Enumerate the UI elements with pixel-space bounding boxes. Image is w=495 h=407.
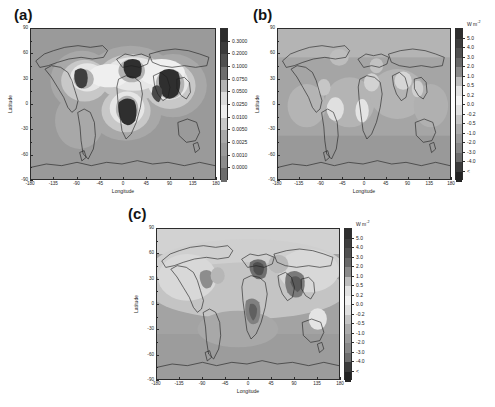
panel-c-colorbar-label: 4.0 <box>356 245 363 250</box>
panel-b-xtickmark <box>386 177 387 180</box>
colorbar-tickmark <box>463 171 465 172</box>
panel-a-yminortick <box>30 155 32 156</box>
colorbar-tickmark <box>228 104 230 105</box>
panel-c-ytick-label: 90 <box>142 226 154 231</box>
panel-c-yminortick <box>156 291 158 292</box>
panel-a-xtickmark <box>146 177 147 180</box>
panel-b-ytick-label: -60 <box>263 152 275 157</box>
panel-c-colorbar-label: -3.0 <box>356 349 365 354</box>
panel-b-colorbar-label: 0.0 <box>467 102 474 107</box>
colorbar-tickmark <box>463 152 465 153</box>
panel-b-xtick-label: 45 <box>383 182 388 187</box>
panel-c-yminortick <box>156 304 158 305</box>
panel-a-label: (a) <box>14 6 33 23</box>
panel-b-xtick-label: 0 <box>363 182 366 187</box>
panel-c-xtick-label: -45 <box>222 382 229 387</box>
colorbar-tickmark <box>352 342 354 343</box>
panel-c-xtickmark <box>248 377 249 380</box>
colorbar-segment <box>221 168 227 181</box>
panel-b-xtickmark <box>408 177 409 180</box>
panel-c-yminortick <box>156 241 158 242</box>
colorbar-tickmark <box>352 352 354 353</box>
panel-a-colorbar: 0.30000.20000.10000.07500.05000.02500.01… <box>220 28 246 180</box>
colorbar-tickmark <box>463 85 465 86</box>
colorbar-segment <box>221 42 227 55</box>
panel-c-ytick-label: 60 <box>142 251 154 256</box>
panel-c-xtickmark <box>271 377 272 380</box>
panel-a-xtickmark <box>53 177 54 180</box>
panel-c-xtick-label: 90 <box>291 382 296 387</box>
colorbar-tickmark <box>228 129 230 130</box>
panel-a: (a) <box>0 0 250 200</box>
panel-b-xtick-label: 90 <box>405 182 410 187</box>
panel-b-colorbar-label: -0.2 <box>467 111 476 116</box>
panel-a-ytick-label: -30 <box>16 127 28 132</box>
panel-b-xtickmark <box>451 177 452 180</box>
panel-b-xtick-label: -135 <box>294 182 303 187</box>
colorbar-segment <box>221 143 227 156</box>
panel-b-ytick-label: 90 <box>263 26 275 31</box>
panel-c-xtick-label: -180 <box>151 382 160 387</box>
panel-b-xtick-label: -90 <box>317 182 324 187</box>
panel-b-colorbar-label: 1.0 <box>467 73 474 78</box>
colorbar-tickmark <box>228 53 230 54</box>
panel-c-colorbar-label: 5.0 <box>356 235 363 240</box>
panel-c-colorbar-label: -1.0 <box>356 330 365 335</box>
panel-b-colorbar-label: -4.0 <box>467 159 476 164</box>
colorbar-tickmark <box>463 57 465 58</box>
panel-a-xaxis-title: Longitude <box>112 189 134 194</box>
panel-b-map <box>278 29 450 179</box>
colorbar-tickmark <box>463 95 465 96</box>
panel-c-yminortick <box>156 266 158 267</box>
colorbar-tickmark <box>463 114 465 115</box>
panel-c-colorbar-label: -2.0 <box>356 340 365 345</box>
panel-c-ytick-label: -30 <box>142 327 154 332</box>
panel-a-yminortick <box>30 41 32 42</box>
panel-b-yminortick <box>277 53 279 54</box>
panel-c-colorbar-unit: W m-2 <box>356 221 369 227</box>
colorbar-tickmark <box>228 117 230 118</box>
colorbar-tickmark <box>352 266 354 267</box>
colorbar-segment <box>221 29 227 42</box>
panel-a-yminortick <box>30 142 32 143</box>
panel-c-colorbar-label: -0.2 <box>356 311 365 316</box>
colorbar-tickmark <box>463 76 465 77</box>
panel-a-xtickmark <box>216 177 217 180</box>
panel-b-yminortick <box>277 79 279 80</box>
colorbar-tickmark <box>352 257 354 258</box>
colorbar-segment <box>221 156 227 169</box>
panel-a-yminortick <box>30 167 32 168</box>
colorbar-tickmark <box>352 371 354 372</box>
panel-a-xtick-label: -180 <box>25 182 34 187</box>
panel-b-colorbar-label: 4.0 <box>467 45 474 50</box>
colorbar-tickmark <box>228 91 230 92</box>
panel-c-ytick-label: -90 <box>142 378 154 383</box>
colorbar-tickmark <box>228 167 230 168</box>
panel-c-yminortick <box>156 329 158 330</box>
panel-b-ytick-label: -30 <box>263 127 275 132</box>
panel-a-map <box>31 29 215 179</box>
panel-a-ytick-label: -60 <box>16 152 28 157</box>
panel-b-yminortick <box>277 66 279 67</box>
panel-b-yaxis-title: Latitude <box>255 95 260 113</box>
panel-a-xtickmark <box>123 177 124 180</box>
panel-c-label: (c) <box>128 205 147 222</box>
panel-b-colorbar-label: 3.0 <box>467 54 474 59</box>
panel-b-yminortick <box>277 91 279 92</box>
panel-a-yminortick <box>30 53 32 54</box>
panel-b-label: (b) <box>253 6 272 23</box>
panel-b-colorbar-label: 2.0 <box>467 64 474 69</box>
panel-b-yminortick <box>277 129 279 130</box>
panel-b-yminortick <box>277 41 279 42</box>
colorbar-tickmark <box>228 79 230 80</box>
panel-c-colorbar-label: -4.0 <box>356 359 365 364</box>
figure-root: (a) <box>0 0 495 407</box>
panel-b-ytick-label: 60 <box>263 51 275 56</box>
panel-c-yaxis-title: Latitude <box>134 295 139 313</box>
panel-c-colorbar-label: < <box>356 368 359 373</box>
panel-b-yminortick <box>277 117 279 118</box>
panel-b-colorbar-label: -2.0 <box>467 140 476 145</box>
panel-c-yminortick <box>156 367 158 368</box>
panel-a-xtick-label: -45 <box>96 182 103 187</box>
colorbar-tickmark <box>352 276 354 277</box>
